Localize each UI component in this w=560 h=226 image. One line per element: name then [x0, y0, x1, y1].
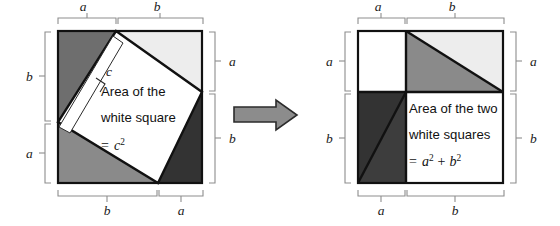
- left-bracket-right-a-label: a: [229, 54, 236, 69]
- right-eq-equals: =: [409, 154, 417, 169]
- left-bracket-top-b: [118, 13, 203, 24]
- right-eq-exp-b: 2: [457, 153, 462, 163]
- left-bracket-bottom-a-label: a: [178, 203, 185, 218]
- right-bracket-left-a: [339, 32, 351, 91]
- left-bracket-right-b-label: b: [229, 131, 236, 146]
- left-bracket-top-a-label: a: [80, 0, 87, 14]
- right-bracket-left-a-label: a: [326, 54, 333, 69]
- right-bracket-top-a-label: a: [375, 0, 382, 14]
- left-eq-exponent: 2: [120, 137, 125, 147]
- left-bracket-left-b: [39, 32, 51, 121]
- right-bracket-right-a: [510, 32, 522, 91]
- right-bracket-bottom-b-label: b: [452, 203, 459, 218]
- left-caption-line-1: Area of the: [101, 84, 166, 99]
- right-bracket-top-b: [407, 13, 504, 24]
- right-eq-term-b: b: [450, 154, 457, 169]
- right-bracket-bottom-b: [407, 190, 504, 202]
- right-bracket-right-a-label: a: [530, 54, 537, 69]
- right-eq-exp-a: 2: [429, 153, 434, 163]
- right-bracket-bottom-a-label: a: [378, 203, 385, 218]
- right-bracket-top-a: [358, 13, 405, 24]
- right-eq-term-a: a: [422, 154, 429, 169]
- left-bracket-left-b-label: b: [26, 69, 33, 84]
- left-bracket-right-a: [209, 32, 221, 91]
- left-bracket-top-a: [58, 13, 116, 24]
- left-bracket-bottom-b: [58, 190, 157, 202]
- left-bracket-bottom-b-label: b: [104, 203, 111, 218]
- right-bracket-top-b-label: b: [449, 0, 456, 14]
- hypotenuse-label-c: c: [106, 64, 112, 79]
- left-eq-equals: =: [101, 138, 109, 153]
- left-bracket-top-b-label: b: [154, 0, 161, 14]
- left-bracket-right-b: [209, 94, 221, 183]
- right-bracket-right-b: [510, 94, 522, 183]
- left-caption-line-2: white square: [100, 110, 176, 125]
- transformation-arrow: [234, 100, 297, 130]
- white-square-a: [358, 31, 406, 92]
- right-eq-plus: +: [438, 154, 446, 169]
- right-panel: a b a b a: [326, 0, 537, 218]
- right-bracket-right-b-label: b: [530, 131, 537, 146]
- right-bracket-bottom-a: [358, 190, 405, 202]
- figure-canvas: a b a b b: [0, 0, 560, 226]
- right-caption-line-1: Area of the two: [409, 101, 498, 116]
- arrow-shape: [234, 100, 297, 130]
- left-bracket-left-a: [39, 124, 51, 183]
- right-bracket-left-b-label: b: [326, 131, 333, 146]
- right-bracket-left-b: [339, 94, 351, 183]
- left-bracket-bottom-a: [159, 190, 203, 202]
- right-caption-line-2: white squares: [408, 127, 491, 142]
- pythagorean-proof-diagram: a b a b b: [0, 0, 560, 226]
- left-panel: a b a b b: [26, 0, 236, 218]
- left-bracket-left-a-label: a: [26, 146, 33, 161]
